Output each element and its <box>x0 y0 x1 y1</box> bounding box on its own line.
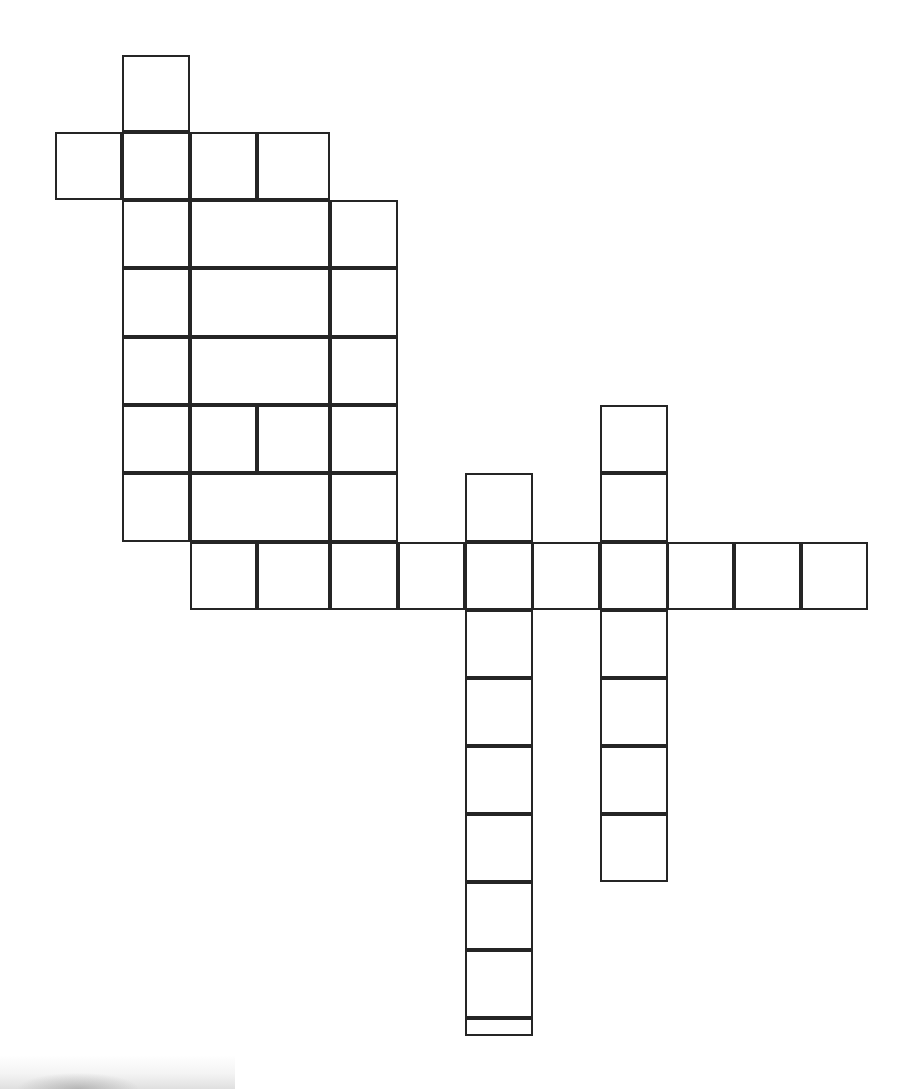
crossword-cell-letter <box>124 339 188 403</box>
crossword-cell[interactable] <box>465 473 533 542</box>
crossword-cell[interactable] <box>122 405 190 473</box>
crossword-cell[interactable] <box>465 542 533 610</box>
crossword-cell-letter <box>467 680 531 744</box>
crossword-cell-letter <box>467 475 531 540</box>
crossword-cell[interactable] <box>190 268 330 337</box>
crossword-cell[interactable] <box>257 542 330 610</box>
crossword-cell-letter <box>602 816 666 880</box>
crossword-cell-letter <box>467 884 531 948</box>
crossword-cell[interactable] <box>600 405 668 473</box>
crossword-cell[interactable] <box>465 678 533 746</box>
crossword-cell-letter <box>332 270 396 335</box>
crossword-cell[interactable] <box>465 814 533 882</box>
crossword-cell-letter <box>534 544 598 608</box>
crossword-cell-letter <box>192 475 328 540</box>
crossword-cell[interactable] <box>330 405 398 473</box>
crossword-cell-letter <box>669 544 732 608</box>
crossword-cell[interactable] <box>330 473 398 542</box>
crossword-cell-letter <box>124 407 188 471</box>
crossword-cell[interactable] <box>532 542 600 610</box>
crossword-cell[interactable] <box>600 746 668 814</box>
crossword-cell-letter <box>467 544 531 608</box>
crossword-cell[interactable] <box>122 337 190 405</box>
crossword-cell-letter <box>192 270 328 335</box>
crossword-cell-letter <box>332 407 396 471</box>
crossword-cell-letter <box>803 544 866 608</box>
crossword-cell[interactable] <box>465 746 533 814</box>
crossword-cell[interactable] <box>398 542 465 610</box>
crossword-cell[interactable] <box>465 882 533 950</box>
crossword-cell[interactable] <box>257 405 330 473</box>
crossword-cell-letter <box>400 544 463 608</box>
crossword-cell-letter <box>332 475 396 540</box>
crossword-cell-letter <box>192 407 255 471</box>
crossword-cell-letter <box>332 544 396 608</box>
crossword-cell[interactable] <box>600 473 668 542</box>
crossword-cell[interactable] <box>600 610 668 678</box>
crossword-cell[interactable] <box>122 55 190 132</box>
crossword-cell[interactable] <box>122 200 190 268</box>
crossword-cell-letter <box>602 748 666 812</box>
crossword-cell-letter <box>602 544 666 608</box>
crossword-cell[interactable] <box>330 268 398 337</box>
crossword-cell-letter <box>467 816 531 880</box>
crossword-grid <box>0 0 918 1089</box>
crossword-cell[interactable] <box>190 200 330 268</box>
crossword-cell[interactable] <box>122 268 190 337</box>
crossword-cell-letter <box>259 544 328 608</box>
crossword-cell[interactable] <box>330 337 398 405</box>
crossword-cell-letter <box>602 680 666 744</box>
crossword-cell-letter <box>124 202 188 266</box>
crossword-cell-letter <box>192 134 255 198</box>
crossword-cell[interactable] <box>190 542 257 610</box>
crossword-cell-letter <box>332 202 396 266</box>
crossword-cell-letter <box>124 57 188 130</box>
crossword-cell-letter <box>467 612 531 676</box>
crossword-cell[interactable] <box>465 1018 533 1036</box>
crossword-cell[interactable] <box>600 542 668 610</box>
crossword-cell-letter <box>259 407 328 471</box>
crossword-cell[interactable] <box>734 542 801 610</box>
crossword-cell-letter <box>259 134 328 198</box>
crossword-cell-letter <box>192 339 328 403</box>
crossword-cell[interactable] <box>190 337 330 405</box>
crossword-cell-letter <box>192 202 328 266</box>
crossword-cell-letter <box>57 134 120 198</box>
crossword-cell-letter <box>124 475 188 540</box>
crossword-cell-letter <box>467 748 531 812</box>
crossword-cell[interactable] <box>667 542 734 610</box>
crossword-cell[interactable] <box>122 132 190 200</box>
crossword-cell[interactable] <box>600 814 668 882</box>
crossword-cell[interactable] <box>122 473 190 542</box>
crossword-cell-letter <box>124 270 188 335</box>
crossword-cell-letter <box>602 475 666 540</box>
crossword-cell[interactable] <box>330 542 398 610</box>
crossword-cell-letter <box>192 544 255 608</box>
crossword-cell[interactable] <box>55 132 122 200</box>
crossword-cell[interactable] <box>330 200 398 268</box>
crossword-cell[interactable] <box>465 950 533 1018</box>
crossword-cell-letter <box>467 952 531 1016</box>
crossword-cell[interactable] <box>801 542 868 610</box>
crossword-cell-letter <box>124 134 188 198</box>
crossword-puzzle <box>0 0 918 1089</box>
crossword-cell-letter <box>602 612 666 676</box>
crossword-cell[interactable] <box>190 405 257 473</box>
crossword-cell-letter <box>736 544 799 608</box>
crossword-cell-letter <box>602 407 666 471</box>
crossword-cell[interactable] <box>190 132 257 200</box>
crossword-cell[interactable] <box>257 132 330 200</box>
crossword-cell[interactable] <box>600 678 668 746</box>
crossword-cell-letter <box>332 339 396 403</box>
crossword-cell[interactable] <box>465 610 533 678</box>
crossword-cell-letter <box>467 1020 531 1034</box>
crossword-cell[interactable] <box>190 473 330 542</box>
